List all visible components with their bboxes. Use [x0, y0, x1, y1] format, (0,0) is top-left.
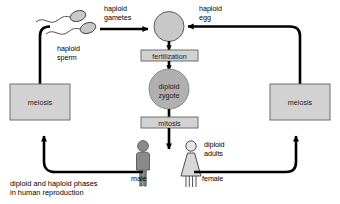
diagram-canvas: haploid gametes haploid egg haploid sper…: [0, 0, 340, 204]
gamete-fusion-circle: [154, 12, 184, 42]
female-figure-icon: [181, 141, 201, 187]
label-meiosis-left: meiosis: [10, 98, 70, 107]
label-haploid-gametes-line2: gametes: [104, 14, 131, 22]
label-haploid-egg-line2: egg: [199, 14, 211, 22]
label-meiosis-right: meiosis: [270, 98, 330, 107]
label-diploid-adults-line2: adults: [204, 150, 223, 158]
caption-line2: in human reproduction: [10, 188, 84, 197]
label-fertilization: fertilization: [141, 52, 198, 61]
label-zygote-line2: zygote: [139, 91, 199, 100]
label-female: female: [202, 175, 223, 183]
edge-male-to-meiosis: [44, 136, 143, 172]
sperm-cells-icon: [36, 9, 97, 36]
caption-line1: diploid and haploid phases: [10, 179, 98, 188]
edge-meiosis-to-egg: [188, 27, 300, 85]
label-mitosis: mitosis: [141, 119, 198, 128]
label-male: male: [131, 175, 146, 183]
edge-meiosis-to-sperm: [40, 27, 50, 85]
label-haploid-sperm-line2: sperm: [57, 54, 77, 62]
